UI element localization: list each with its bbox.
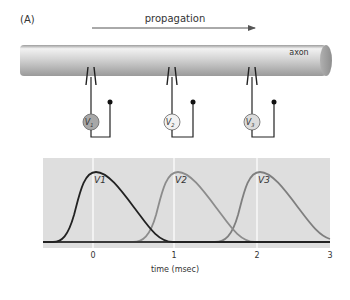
recording-setup-1: V1 <box>83 67 113 137</box>
plot-background <box>43 158 330 248</box>
panel-label: (A) <box>20 14 35 25</box>
x-axis: 0 1 2 3 time (msec) <box>90 251 332 274</box>
plot-area: V1 V2 V3 <box>43 158 330 248</box>
label-v1: V1 <box>94 175 106 185</box>
label-v2: V2 <box>175 175 187 185</box>
x-tick-2: 2 <box>254 251 259 260</box>
x-tick-1: 1 <box>171 251 176 260</box>
propagation-label: propagation <box>145 13 205 24</box>
x-tick-3: 3 <box>327 251 332 260</box>
ground-electrode-1 <box>108 100 113 105</box>
figure: (A) propagation axon V1 V2 V3 <box>0 0 350 300</box>
ground-electrode-2 <box>191 100 196 105</box>
label-v3: V3 <box>258 175 270 185</box>
axon-label: axon <box>289 48 308 57</box>
recording-setup-2: V2 <box>164 67 196 137</box>
x-tick-0: 0 <box>90 251 95 260</box>
recording-setup-3: V3 <box>244 67 277 137</box>
x-axis-label: time (msec) <box>151 265 199 274</box>
ground-electrode-3 <box>272 100 277 105</box>
